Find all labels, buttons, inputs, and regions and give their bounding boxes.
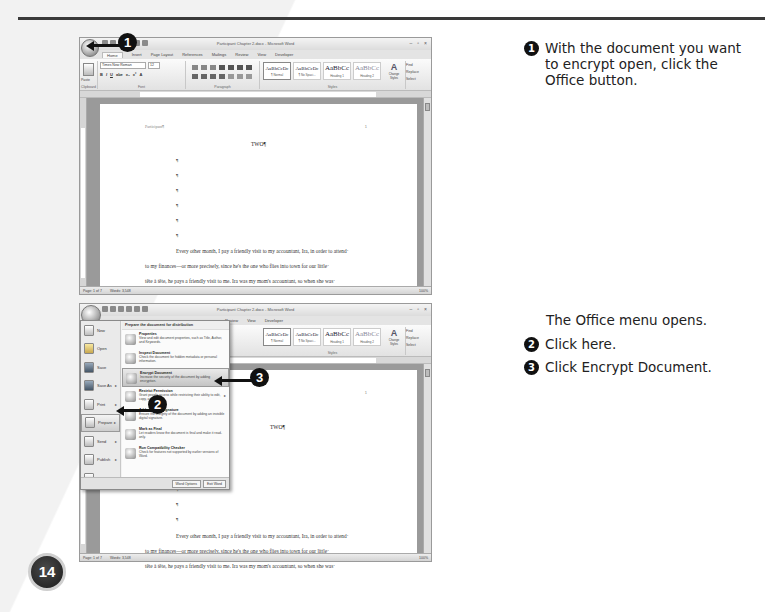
close-icon[interactable]: × bbox=[424, 306, 427, 312]
exit-word-button[interactable]: Exit Word bbox=[203, 480, 226, 488]
maximize-icon[interactable]: ▫ bbox=[417, 40, 419, 46]
style-no-spacing[interactable]: AaBbCcDc¶ No Spaci... bbox=[293, 62, 321, 80]
vertical-ruler[interactable] bbox=[80, 98, 87, 286]
find-button[interactable]: Find bbox=[406, 328, 419, 335]
font-color-button[interactable]: A bbox=[139, 72, 142, 77]
numbering-icon[interactable] bbox=[201, 65, 207, 70]
submenu-inspect-document[interactable]: Inspect DocumentCheck the document for h… bbox=[122, 349, 229, 368]
word-count[interactable]: Words: 3,548 bbox=[110, 556, 131, 560]
tab-view[interactable]: View bbox=[257, 52, 266, 57]
menu-send[interactable]: Send▸ bbox=[81, 432, 120, 451]
minimize-icon[interactable]: – bbox=[410, 306, 413, 312]
tab-references[interactable]: References bbox=[182, 52, 202, 57]
style-sample: AaBbCcDc bbox=[265, 66, 288, 71]
style-heading-1[interactable]: AaBbCcHeading 1 bbox=[323, 328, 351, 346]
multilevel-icon[interactable] bbox=[210, 65, 216, 70]
menu-save-as[interactable]: Save As▸ bbox=[81, 377, 120, 396]
horizontal-ruler[interactable] bbox=[80, 91, 431, 98]
style-heading-1[interactable]: AaBbCcHeading 1 bbox=[323, 62, 351, 80]
subscript-button[interactable]: x₂ bbox=[126, 72, 130, 77]
shading-icon[interactable] bbox=[237, 74, 243, 79]
decrease-indent-icon[interactable] bbox=[219, 65, 225, 70]
replace-button[interactable]: Replace bbox=[406, 335, 419, 342]
zoom-level[interactable]: 100% bbox=[419, 556, 428, 560]
underline-button[interactable]: U bbox=[110, 72, 113, 77]
scroll-thumb[interactable] bbox=[425, 369, 430, 377]
tab-developer[interactable]: Developer bbox=[265, 318, 283, 323]
menu-new[interactable]: New bbox=[81, 321, 120, 340]
paragraph-group: Paragraph bbox=[186, 61, 260, 89]
increase-indent-icon[interactable] bbox=[228, 65, 234, 70]
style-heading-2[interactable]: AaBbCcHeading 2 bbox=[353, 328, 381, 346]
change-styles-button[interactable]: AChange Styles bbox=[386, 62, 402, 80]
publish-icon bbox=[84, 454, 94, 465]
submenu-properties[interactable]: PropertiesView and edit document propert… bbox=[122, 330, 229, 349]
select-button[interactable]: Select bbox=[406, 76, 419, 83]
tab-review[interactable]: Review bbox=[235, 52, 248, 57]
replace-button[interactable]: Replace bbox=[406, 69, 419, 76]
menu-prepare[interactable]: Prepare▸ bbox=[81, 414, 120, 433]
select-button[interactable]: Select bbox=[406, 342, 419, 349]
submenu-encrypt-document[interactable]: Encrypt DocumentIncrease the security of… bbox=[122, 368, 229, 387]
tab-developer[interactable]: Developer bbox=[275, 52, 293, 57]
menu-save[interactable]: Save bbox=[81, 358, 120, 377]
scroll-thumb[interactable] bbox=[425, 103, 430, 111]
page-count[interactable]: Page: 1 of 7 bbox=[83, 556, 102, 560]
callout-3: 3 bbox=[250, 368, 269, 387]
vertical-scrollbar[interactable] bbox=[423, 364, 431, 553]
style-normal[interactable]: AaBbCcDc¶ Normal bbox=[263, 62, 291, 80]
strikethrough-button[interactable]: abe bbox=[116, 72, 123, 77]
tab-insert[interactable]: Insert bbox=[132, 52, 142, 57]
paragraph-mark: ¶ bbox=[176, 173, 178, 178]
maximize-icon[interactable]: ▫ bbox=[417, 306, 419, 312]
menu-open[interactable]: Open bbox=[81, 340, 120, 359]
show-marks-icon[interactable] bbox=[246, 65, 252, 70]
submenu-compatibility-checker[interactable]: Run Compatibility CheckerCheck for featu… bbox=[122, 444, 229, 463]
word-count[interactable]: Words: 3,548 bbox=[110, 289, 131, 293]
tab-mailings[interactable]: Mailings bbox=[212, 52, 227, 57]
editing-group: Find Replace Select bbox=[406, 328, 419, 349]
step-text: Click here. bbox=[545, 336, 755, 352]
font-size-select[interactable]: 12 bbox=[148, 62, 160, 69]
tab-view[interactable]: View bbox=[247, 318, 256, 323]
find-button[interactable]: Find bbox=[406, 62, 419, 69]
submenu-restrict-permission[interactable]: Restrict PermissionGrant people access w… bbox=[122, 387, 229, 406]
zoom-level[interactable]: 100% bbox=[419, 289, 428, 293]
document-page[interactable]: Participant¶ 1 TWO¶ ¶ ¶ ¶ ¶ ¶ ¶ Every ot… bbox=[100, 104, 417, 286]
word-options-button[interactable]: Word Options bbox=[172, 480, 201, 488]
bold-button[interactable]: B bbox=[100, 72, 103, 77]
menu-label: Save As bbox=[97, 383, 112, 388]
style-normal[interactable]: AaBbCcDc¶ Normal bbox=[263, 328, 291, 346]
borders-icon[interactable] bbox=[246, 74, 252, 79]
page-number-badge: 14 bbox=[28, 553, 66, 591]
style-no-spacing[interactable]: AaBbCcDc¶ No Spaci... bbox=[293, 328, 321, 346]
submenu-mark-as-final[interactable]: Mark as FinalLet readers know the docume… bbox=[122, 425, 229, 444]
justify-icon[interactable] bbox=[219, 74, 225, 79]
align-center-icon[interactable] bbox=[201, 74, 207, 79]
font-name-select[interactable]: Times New Roman bbox=[100, 62, 146, 69]
align-left-icon[interactable] bbox=[192, 74, 198, 79]
submenu-item-desc: Increase the security of the document by… bbox=[140, 375, 210, 383]
vertical-scrollbar[interactable] bbox=[423, 98, 431, 286]
tab-page-layout[interactable]: Page Layout bbox=[151, 52, 173, 57]
minimize-icon[interactable]: – bbox=[410, 40, 413, 46]
style-heading-2[interactable]: AaBbCcHeading 2 bbox=[353, 62, 381, 80]
close-icon[interactable]: × bbox=[424, 40, 427, 46]
tab-home[interactable]: Home bbox=[102, 52, 123, 58]
send-icon bbox=[84, 436, 94, 447]
page-count[interactable]: Page: 1 of 7 bbox=[83, 289, 102, 293]
paste-icon[interactable] bbox=[83, 63, 94, 76]
bullets-icon[interactable] bbox=[192, 65, 198, 70]
menu-publish[interactable]: Publish▸ bbox=[81, 451, 120, 470]
align-right-icon[interactable] bbox=[210, 74, 216, 79]
sort-icon[interactable] bbox=[237, 65, 243, 70]
printer-icon bbox=[84, 399, 94, 410]
menu-print[interactable]: Print▸ bbox=[81, 395, 120, 414]
line-spacing-icon[interactable] bbox=[228, 74, 234, 79]
submenu-arrow-icon: ▸ bbox=[224, 393, 226, 398]
italic-button[interactable]: I bbox=[106, 72, 107, 77]
font-group-label: Font bbox=[98, 85, 185, 89]
change-styles-button[interactable]: AChange Styles bbox=[386, 328, 402, 346]
superscript-button[interactable]: x² bbox=[133, 72, 137, 77]
style-label: ¶ Normal bbox=[264, 339, 290, 343]
